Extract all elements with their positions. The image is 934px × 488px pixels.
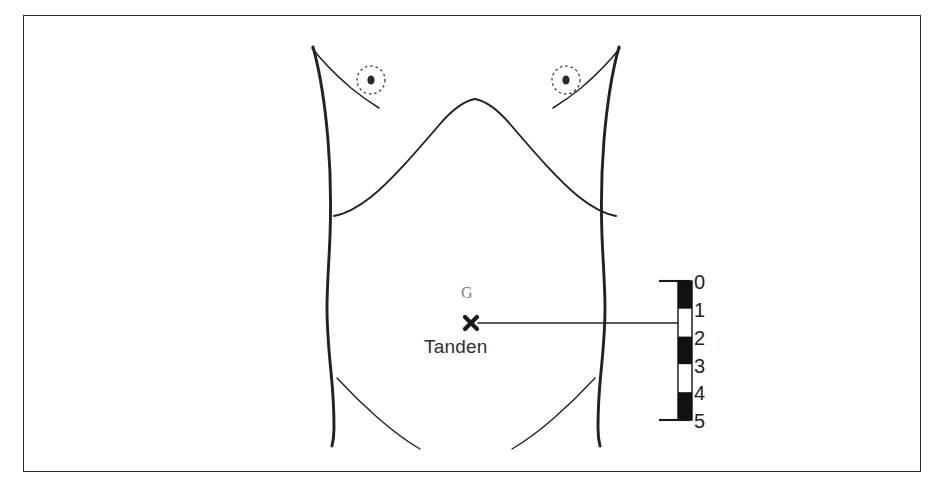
nipple-marker-left <box>357 66 385 94</box>
torso-outline-group <box>312 47 678 449</box>
scale-segment-1-2 <box>678 309 692 337</box>
scale-bar <box>659 281 692 420</box>
torso-line-drawing <box>0 0 934 488</box>
scale-label-5: 5 <box>694 411 705 431</box>
scale-segment-4-5 <box>678 392 692 420</box>
scale-label-1: 1 <box>694 300 705 320</box>
tanden-label: Tanden <box>424 337 488 356</box>
inguinal-line-left <box>337 378 420 449</box>
tanden-x-marker <box>465 317 477 329</box>
scale-label-2: 2 <box>694 328 705 348</box>
costal-arch-right-branch <box>475 99 616 216</box>
scale-bar-segments <box>678 281 692 420</box>
scale-segment-0-1 <box>678 281 692 309</box>
costal-arch-left-branch <box>334 99 475 216</box>
scale-label-4: 4 <box>694 383 705 403</box>
figure-root: 0 1 2 3 4 5 G Tanden <box>0 0 934 488</box>
nipple-marker-right <box>552 66 580 94</box>
torso-contour-right <box>598 47 619 446</box>
torso-contour-left <box>313 47 334 446</box>
scale-label-3: 3 <box>694 356 705 376</box>
papilla-dot <box>367 75 374 84</box>
scale-segment-3-4 <box>678 364 692 392</box>
scale-label-0: 0 <box>694 272 705 292</box>
scale-segment-2-3 <box>678 337 692 365</box>
papilla-dot <box>562 75 569 84</box>
center-mark-glyph: G <box>461 285 473 301</box>
inguinal-line-right <box>512 378 595 449</box>
